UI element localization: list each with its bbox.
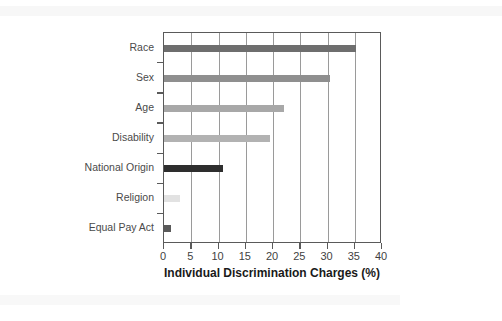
category-tick-2	[157, 92, 164, 93]
bar-national-origin[interactable]	[164, 165, 223, 172]
bar-sex[interactable]	[164, 75, 330, 82]
x-tick-label-0: 0	[148, 250, 178, 262]
x-tick-label-15: 15	[230, 250, 260, 262]
x-tick-label-35: 35	[339, 250, 369, 262]
category-tick-4	[157, 153, 164, 154]
category-tick-6	[157, 213, 164, 214]
x-tick-label-20: 20	[257, 250, 287, 262]
bar-race[interactable]	[164, 45, 356, 52]
bar-disability[interactable]	[164, 135, 270, 142]
value-axis-ticks	[163, 243, 381, 249]
x-tick-25	[299, 243, 300, 249]
bar-age[interactable]	[164, 105, 284, 112]
bar-equal-pay-act[interactable]	[164, 225, 171, 232]
category-label-age: Age	[26, 102, 154, 113]
category-tick-1	[157, 62, 164, 63]
x-axis-title: Individual Discrimination Charges (%)	[163, 266, 381, 280]
x-tick-label-10: 10	[203, 250, 233, 262]
category-axis-ticks	[157, 32, 164, 243]
x-tick-label-30: 30	[312, 250, 342, 262]
x-tick-label-5: 5	[175, 250, 205, 262]
category-axis-labels: RaceSexAgeDisabilityNational OriginRelig…	[30, 32, 160, 243]
x-tick-label-25: 25	[284, 250, 314, 262]
x-tick-label-40: 40	[366, 250, 396, 262]
x-tick-30	[327, 243, 328, 249]
category-label-equal-pay-act: Equal Pay Act	[26, 222, 154, 233]
gridline-35	[355, 33, 356, 242]
x-tick-20	[272, 243, 273, 249]
gridline-25	[300, 33, 301, 242]
gridline-20	[273, 33, 274, 242]
value-axis-tick-labels: 0510152025303540	[163, 250, 381, 266]
category-tick-5	[157, 183, 164, 184]
x-tick-35	[354, 243, 355, 249]
plot-area	[163, 32, 381, 243]
category-label-national-origin: National Origin	[26, 162, 154, 173]
bar-chart-figure: RaceSexAgeDisabilityNational OriginRelig…	[0, 0, 502, 321]
x-tick-10	[218, 243, 219, 249]
bar-religion[interactable]	[164, 195, 180, 202]
category-label-race: Race	[26, 42, 154, 53]
x-tick-5	[190, 243, 191, 249]
gridline-30	[328, 33, 329, 242]
x-tick-0	[163, 243, 164, 249]
category-tick-3	[157, 122, 164, 123]
category-label-religion: Religion	[26, 192, 154, 203]
x-tick-40	[381, 243, 382, 249]
category-label-sex: Sex	[26, 72, 154, 83]
x-tick-15	[245, 243, 246, 249]
category-label-disability: Disability	[26, 132, 154, 143]
